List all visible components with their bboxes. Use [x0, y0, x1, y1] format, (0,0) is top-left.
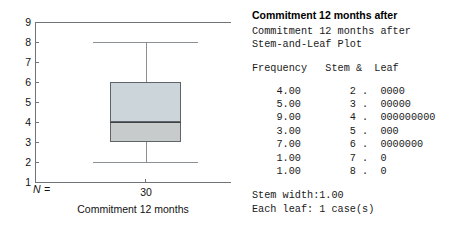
- boxplot-panel: 987654321 N = 30 Commitment 12 months: [0, 0, 238, 233]
- spacer: [252, 76, 470, 85]
- y-axis-tick: [35, 42, 39, 43]
- screenshot-root: 987654321 N = 30 Commitment 12 months Co…: [0, 0, 470, 233]
- y-axis-tick: [35, 62, 39, 63]
- stem-leaf-column-header: Frequency Stem & Leaf: [252, 62, 470, 75]
- y-axis-tick: [35, 142, 39, 143]
- n-equals-label: N =: [33, 183, 51, 195]
- stem-width-footer: Stem width:1.00: [252, 189, 470, 202]
- stem-leaf-row: 4.00 2 . 0000: [252, 85, 470, 98]
- y-axis-tick: [35, 162, 39, 163]
- n-value: 30: [110, 186, 182, 198]
- y-axis-tick: [35, 22, 39, 23]
- stem-leaf-row: 1.00 8 . 0: [252, 165, 470, 178]
- box-interquartile-lower: [110, 122, 181, 142]
- stem-leaf-row: 9.00 4 . 000000000: [252, 111, 470, 124]
- lower-whisker-line: [146, 142, 147, 162]
- stem-leaf-row: 3.00 5 . 000: [252, 125, 470, 138]
- upper-whisker-line: [146, 42, 147, 82]
- y-axis-tick-label: 7: [3, 57, 31, 67]
- upper-whisker-cap: [93, 42, 198, 43]
- y-axis-tick-label: 8: [3, 37, 31, 47]
- y-axis-tick: [35, 122, 39, 123]
- x-axis-label: Commitment 12 months: [35, 203, 231, 215]
- y-axis-tick: [35, 102, 39, 103]
- x-axis-tick: [145, 179, 146, 183]
- y-axis-tick: [35, 82, 39, 83]
- y-axis-tick-label: 4: [3, 117, 31, 127]
- stem-leaf-subtitle-line-2: Stem-and-Leaf Plot: [252, 38, 470, 51]
- lower-whisker-cap: [93, 162, 198, 163]
- y-axis-tick-label: 6: [3, 77, 31, 87]
- median-line: [110, 122, 181, 123]
- stem-leaf-row: 7.00 6 . 0000000: [252, 138, 470, 151]
- spacer: [252, 178, 470, 189]
- plot-frame-top-border: [35, 22, 231, 23]
- plot-frame-bottom-border: [35, 182, 231, 183]
- y-axis-tick-label: 3: [3, 137, 31, 147]
- y-axis-tick-label: 1: [3, 177, 31, 187]
- spacer: [252, 51, 470, 62]
- y-axis-tick-label: 5: [3, 97, 31, 107]
- y-axis-tick-label: 9: [3, 17, 31, 27]
- stem-and-leaf-panel: Commitment 12 months after Commitment 12…: [252, 8, 470, 216]
- stem-leaf-bold-title: Commitment 12 months after: [252, 8, 470, 22]
- y-axis-tick-label: 2: [3, 157, 31, 167]
- stem-leaf-subtitle-line-1: Commitment 12 months after: [252, 25, 470, 38]
- each-leaf-footer: Each leaf: 1 case(s): [252, 203, 470, 216]
- stem-leaf-row: 1.00 7 . 0: [252, 152, 470, 165]
- stem-leaf-row: 5.00 3 . 00000: [252, 98, 470, 111]
- stem-leaf-rows: 4.00 2 . 0000 5.00 3 . 00000 9.00 4 . 00…: [252, 85, 470, 179]
- box-interquartile-upper: [110, 82, 181, 122]
